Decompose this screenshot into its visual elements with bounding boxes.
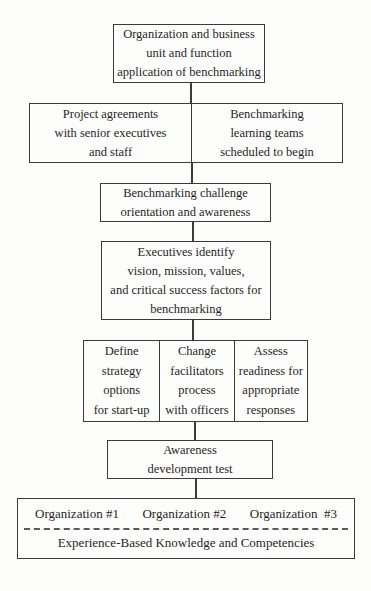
box-text-line: Benchmarking challenge <box>101 184 270 203</box>
box-text-line: with officers <box>160 401 233 421</box>
box-text-line: Executives identify <box>102 243 270 262</box>
box-text-line: orientation and awareness <box>101 203 270 222</box>
organizations-row: Organization #1 Organization #2 Organiza… <box>18 499 354 523</box>
box-text-line: vision, mission, values, <box>102 262 270 281</box>
box-text-line: facilitators <box>160 362 233 382</box>
box-organizations-knowledge: Organization #1 Organization #2 Organiza… <box>17 498 355 559</box>
box-text-line: benchmarking <box>102 300 270 319</box>
box-text-line: Benchmarking <box>192 105 342 124</box>
organization-1-label: Organization #1 <box>35 505 119 523</box>
box-text-line: scheduled to begin <box>192 143 342 162</box>
box-text-line: Define <box>84 342 159 362</box>
box-text-line: unit and function <box>114 44 264 63</box>
box-organization-application: Organization and business unit and funct… <box>113 24 265 83</box>
box-awareness-test: Awareness development test <box>107 440 273 479</box>
box-text-line: Project agreements <box>30 105 191 124</box>
connector-5 <box>194 422 196 440</box>
box-text-line: and critical success factors for <box>102 281 270 300</box>
box-text-line: readiness for <box>235 362 307 382</box>
box-text-line: process <box>160 381 233 401</box>
box-text-line: with senior executives <box>30 124 191 143</box>
cell-change-facilitators: Change facilitators process with officer… <box>160 341 234 421</box>
box-text-line: learning teams <box>192 124 342 143</box>
box-text-line: Organization and business <box>114 25 264 44</box>
knowledge-competencies-label: Experience-Based Knowledge and Competenc… <box>18 534 354 552</box>
connector-3 <box>192 222 194 241</box>
box-text-line: Change <box>160 342 233 362</box>
box-strategy-change-assess: Define strategy options for start-up Cha… <box>83 340 308 422</box>
box-text-line: options <box>84 381 159 401</box>
box-text-line: and staff <box>30 143 191 162</box>
cell-define-strategy: Define strategy options for start-up <box>84 341 160 421</box>
connector-6 <box>195 479 197 498</box>
organization-2-label: Organization #2 <box>142 505 226 523</box>
box-text-line: application of benchmarking <box>114 63 264 82</box>
box-challenge-orientation: Benchmarking challenge orientation and a… <box>100 183 271 222</box>
box-text-line: Awareness <box>108 441 272 460</box>
cell-assess-readiness: Assess readiness for appropriate respons… <box>235 341 307 421</box>
organization-3-label: Organization #3 <box>250 505 337 523</box>
cell-project-agreements: Project agreements with senior executive… <box>30 104 192 162</box>
connector-2 <box>191 163 193 183</box>
connector-1 <box>190 83 192 103</box>
box-text-line: development test <box>108 460 272 479</box>
box-text-line: appropriate <box>235 381 307 401</box>
connector-4 <box>192 320 194 340</box>
box-text-line: Assess <box>235 342 307 362</box>
benchmarking-flowchart: Organization and business unit and funct… <box>0 0 371 591</box>
dashed-divider <box>24 528 348 530</box>
box-text-line: strategy <box>84 362 159 382</box>
box-agreements-and-teams: Project agreements with senior executive… <box>29 103 343 163</box>
cell-learning-teams: Benchmarking learning teams scheduled to… <box>192 104 342 162</box>
box-text-line: responses <box>235 401 307 421</box>
box-text-line: for start-up <box>84 401 159 421</box>
box-executives-identify: Executives identify vision, mission, val… <box>101 241 271 320</box>
